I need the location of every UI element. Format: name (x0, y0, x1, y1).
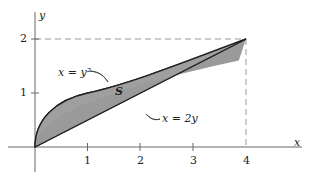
x-tick-label-2: 2 (137, 155, 144, 166)
x-tick-label-3: 3 (190, 155, 197, 166)
x-tick-label-1: 1 (84, 155, 91, 166)
x-axis-label: x (294, 137, 300, 148)
y-tick-label-2: 2 (20, 33, 27, 44)
parabola-label: x = y² (58, 67, 91, 78)
region-diagram: y x 2 1 1 2 3 4 x = y² x = 2y S (0, 0, 311, 177)
region-label: S (115, 86, 123, 97)
line-label: x = 2y (162, 113, 198, 124)
y-axis-label: y (39, 10, 45, 21)
y-tick-label-1: 1 (20, 87, 27, 98)
x-tick-label-4: 4 (243, 155, 250, 166)
region-overlay (0, 0, 311, 177)
